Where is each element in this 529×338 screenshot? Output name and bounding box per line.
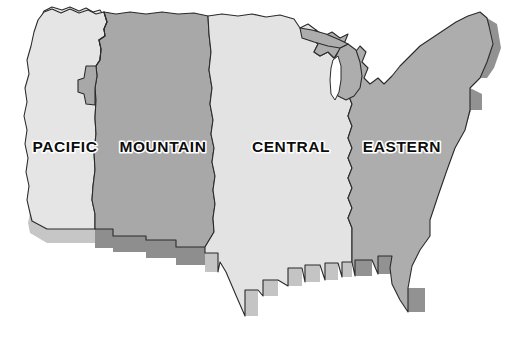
zone-label-mountain: MOUNTAIN — [119, 138, 206, 155]
zone-polygons — [24, 7, 493, 316]
zone-mountain[interactable] — [92, 12, 215, 247]
mountain-side-face-nm — [146, 240, 176, 258]
zone-label-eastern: EASTERN — [363, 138, 441, 155]
zone-label-central: CENTRAL — [252, 138, 330, 155]
central-side-face-gulf-1 — [263, 280, 278, 296]
mountain-side-face-az2 — [113, 236, 146, 252]
eastern-side-face-panhandle — [355, 260, 372, 276]
zone-label-pacific: PACIFIC — [32, 138, 97, 155]
time-zone-map: PACIFIC MOUNTAIN CENTRAL EASTERN — [0, 0, 529, 338]
mountain-side-face-nm2 — [176, 247, 205, 265]
central-side-face-gulf-2 — [288, 268, 302, 286]
central-side-face-gulf-4 — [325, 263, 338, 280]
central-side-face-tx-west — [205, 253, 218, 272]
eastern-side-face-ne — [470, 88, 482, 110]
map-svg: PACIFIC MOUNTAIN CENTRAL EASTERN — [0, 0, 529, 338]
central-side-face-tx-tip — [245, 290, 258, 316]
mountain-side-face-az — [95, 229, 113, 248]
pacific-side-face-2 — [57, 229, 95, 243]
eastern-side-face-fl-tip — [408, 288, 425, 312]
central-side-face-gulf-5 — [342, 262, 352, 277]
central-side-face-gulf-3 — [305, 265, 320, 282]
